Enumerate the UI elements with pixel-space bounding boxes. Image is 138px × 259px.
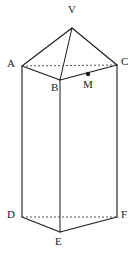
figure-canvas <box>0 0 138 259</box>
edge-A-C-hidden <box>22 65 117 66</box>
geometry-figure: V A B C M D E F <box>0 0 138 259</box>
edge-A-B <box>22 66 60 80</box>
vertex-label-V: V <box>68 4 76 15</box>
edge-E-F <box>60 217 117 232</box>
vertex-label-B: B <box>51 82 58 93</box>
solid-edge-group <box>22 28 117 232</box>
vertex-label-A: A <box>7 58 15 69</box>
edge-D-E <box>22 217 60 232</box>
edge-V-C <box>72 28 117 65</box>
vertex-label-E: E <box>55 236 62 247</box>
vertex-label-D: D <box>7 209 15 220</box>
vertex-label-C: C <box>121 56 128 67</box>
dashed-edge-group <box>22 65 117 217</box>
vertex-label-F: F <box>121 209 127 220</box>
vertex-label-M: M <box>83 79 93 90</box>
point-M-dot <box>86 72 90 76</box>
marked-point-group <box>86 72 90 76</box>
